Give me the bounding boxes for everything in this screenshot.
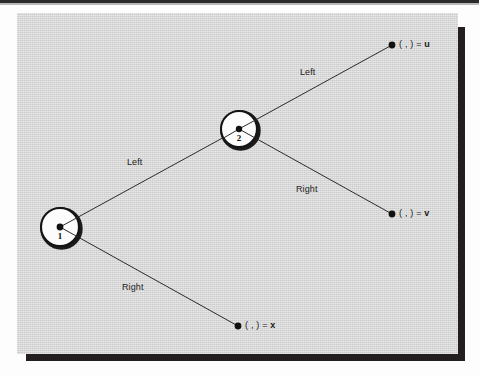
leaf-label-x-value: x <box>270 320 275 330</box>
tree-diagram <box>0 0 480 376</box>
leaf-dot-v[interactable] <box>389 211 396 218</box>
node-1-label: 1 <box>50 231 70 241</box>
edge-line-1-left <box>60 129 239 227</box>
leaf-label-x-prefix: ( , ) = <box>245 320 268 330</box>
figure-screenshot: 1 2 Left Right Left Right ( , ) = u ( , … <box>0 0 480 376</box>
leaf-label-x: ( , ) = x <box>245 320 276 330</box>
leaf-label-v: ( , ) = v <box>399 208 430 218</box>
node-2-label: 2 <box>229 133 249 143</box>
node-1-center-dot <box>57 224 64 231</box>
edge-label-2-right: Right <box>296 184 318 194</box>
leaf-label-u-prefix: ( , ) = <box>399 39 422 49</box>
edge-line-2-right <box>239 129 392 214</box>
node-2-center-dot <box>236 126 242 132</box>
leaf-label-u-value: u <box>424 39 430 49</box>
edge-line-1-right <box>60 227 238 326</box>
node-1[interactable] <box>41 208 81 248</box>
leaf-dot-x[interactable] <box>235 323 242 330</box>
leaf-dot-u[interactable] <box>389 42 396 49</box>
leaf-label-u: ( , ) = u <box>399 39 430 49</box>
leaf-label-v-prefix: ( , ) = <box>399 208 422 218</box>
edge-label-2-left: Left <box>300 67 315 77</box>
edge-label-1-right: Right <box>122 282 144 292</box>
edge-line-2-left <box>239 45 392 129</box>
leaf-label-v-value: v <box>424 208 429 218</box>
edge-label-1-left: Left <box>127 157 142 167</box>
